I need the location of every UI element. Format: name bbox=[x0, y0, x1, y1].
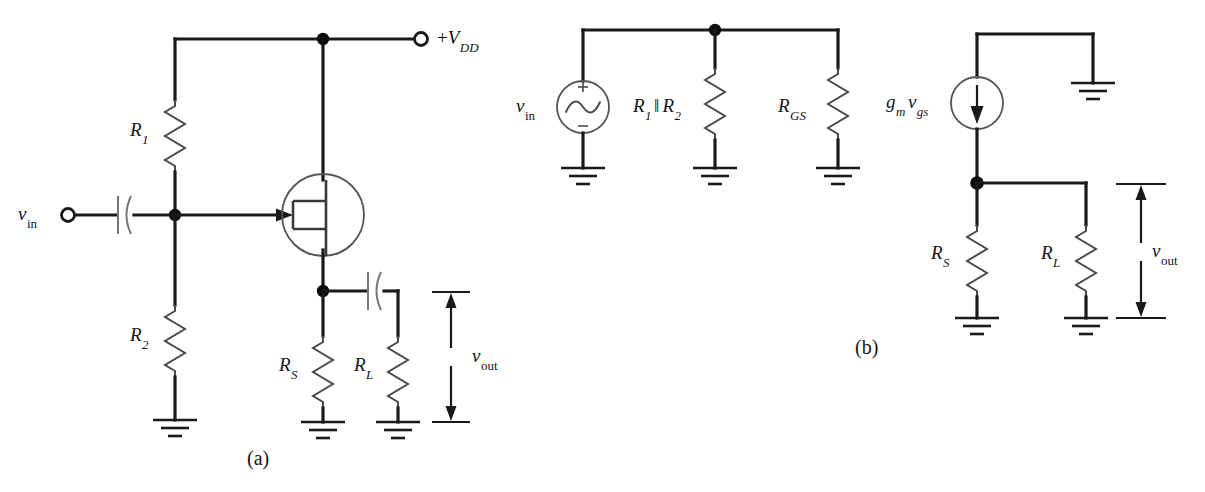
label-vin-b: vin bbox=[516, 96, 535, 119]
label-vout-a: vout bbox=[472, 346, 497, 369]
label-rl-a: RL bbox=[354, 355, 373, 378]
caption-a: (a) bbox=[247, 448, 269, 468]
vout-arrow-down-b bbox=[1136, 261, 1147, 317]
caption-b: (b) bbox=[855, 337, 878, 357]
label-rs-b: RS bbox=[931, 243, 949, 266]
ground-symbol-b-r1r2 bbox=[693, 168, 737, 184]
circuit-drawing bbox=[0, 0, 1205, 492]
ground-symbol-rl bbox=[376, 422, 420, 438]
ground-symbol-rs bbox=[301, 422, 345, 438]
input-cap-plate-curved bbox=[127, 196, 132, 234]
output-cap-plate-curved bbox=[377, 272, 382, 310]
ground-symbol-b-cs bbox=[1071, 83, 1115, 99]
node-dot-supply bbox=[317, 33, 329, 45]
ground-symbol-b-rs bbox=[955, 318, 999, 334]
resistor-b-rs-zigzag bbox=[967, 225, 987, 297]
ground-symbol-b-rl bbox=[1064, 318, 1108, 334]
resistor-b-rl-zigzag bbox=[1076, 225, 1096, 297]
ground-symbol-b-source bbox=[561, 168, 605, 184]
circuit-b-right-group bbox=[951, 34, 1166, 334]
circuit-figure: +VDD vin R1 R2 RS RL vout (a) vin R1‖R2 … bbox=[0, 0, 1205, 492]
label-rs-a: RS bbox=[279, 355, 297, 378]
ac-source-sine bbox=[566, 102, 600, 113]
label-gm-vgs-b: gmvgs bbox=[886, 92, 928, 115]
resistor-rl-zigzag bbox=[388, 336, 408, 408]
input-terminal-ring bbox=[62, 209, 75, 222]
resistor-r1-zigzag bbox=[165, 100, 185, 172]
ground-symbol-r2 bbox=[153, 420, 197, 436]
label-r1-a: R1 bbox=[130, 120, 148, 143]
vout-arrow-up-b bbox=[1136, 185, 1147, 243]
label-supply-vdd: +VDD bbox=[437, 28, 478, 51]
label-r2-a: R2 bbox=[130, 325, 148, 348]
resistor-rs-zigzag bbox=[313, 336, 333, 408]
vout-arrow-up-a bbox=[446, 293, 457, 348]
label-rgs-b: RGS bbox=[778, 96, 806, 119]
label-vin-a: vin bbox=[18, 204, 37, 227]
circuit-a-group bbox=[62, 33, 471, 439]
label-r1-par-r2-b: R1‖R2 bbox=[633, 96, 681, 119]
label-vout-b: vout bbox=[1152, 241, 1177, 264]
vout-arrow-down-a bbox=[446, 366, 457, 421]
label-rl-b: RL bbox=[1041, 243, 1060, 266]
ground-symbol-b-rgs bbox=[816, 168, 860, 184]
supply-terminal-ring bbox=[415, 33, 428, 46]
resistor-r1r2-zigzag bbox=[705, 68, 725, 140]
resistor-rgs-zigzag bbox=[828, 68, 848, 140]
resistor-r2-zigzag bbox=[165, 305, 185, 377]
gate-arrowhead bbox=[276, 209, 293, 222]
circuit-b-left-group bbox=[557, 24, 860, 184]
current-source-arrow bbox=[971, 85, 984, 124]
